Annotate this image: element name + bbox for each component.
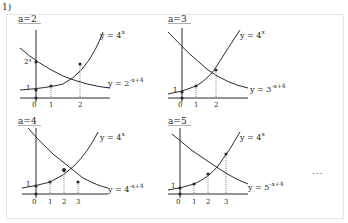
x-tick-1: 1 xyxy=(49,101,53,109)
panel-a3: a=3 y = 4x y = 3-x+4 1 0 1 2 xyxy=(168,14,328,110)
x-tick-1: 1 xyxy=(48,198,52,206)
x-tick-3: 3 xyxy=(224,198,228,206)
curve-label-ax: y = 2-x+4 xyxy=(108,76,144,88)
y-label-2-4: 2⁴ xyxy=(24,58,31,66)
curve-label-ax: y = 5-x+4 xyxy=(248,180,284,192)
panel-a5: a=5 y = 4x y = 5-x+4 1 0 1 2 3 xyxy=(168,116,328,212)
curve-label-ax: y = 4-x+4 xyxy=(108,182,144,194)
y-label-1: 1 xyxy=(171,182,175,190)
x-tick-2: 2 xyxy=(214,101,218,109)
x-tick-2: 2 xyxy=(62,198,66,206)
x-tick-3: 3 xyxy=(76,198,80,206)
panel-a2: a=2 y = 4x y = 2-x+4 1 2⁴ 0 1 2 xyxy=(8,14,168,110)
y-label-1: 1 xyxy=(173,86,177,94)
curve-label-4x: y = 4x xyxy=(100,130,125,142)
y-label-1: 1 xyxy=(26,84,30,92)
x-tick-0: 0 xyxy=(178,101,182,109)
curve-label-4x: y = 4x xyxy=(240,130,265,142)
x-tick-0: 0 xyxy=(176,198,180,206)
x-tick-1: 1 xyxy=(192,198,196,206)
curve-label-4x: y = 4x xyxy=(240,28,265,40)
curve-label-ax: y = 3-x+4 xyxy=(250,82,286,94)
x-tick-1: 1 xyxy=(194,101,198,109)
problem-number: 1) xyxy=(2,2,11,12)
y-label-1: 1 xyxy=(26,180,30,188)
x-tick-2: 2 xyxy=(206,198,210,206)
continuation-ellipsis: ... xyxy=(312,166,324,176)
curve-label-4x: y = 4x xyxy=(100,28,125,40)
graph-a2 xyxy=(8,14,168,110)
panel-a4: a=4 y = 4x y = 4-x+4 1 0 1 2 3 xyxy=(8,116,168,212)
x-tick-2: 2 xyxy=(78,101,82,109)
x-tick-0: 0 xyxy=(32,101,36,109)
x-tick-0: 0 xyxy=(32,198,36,206)
